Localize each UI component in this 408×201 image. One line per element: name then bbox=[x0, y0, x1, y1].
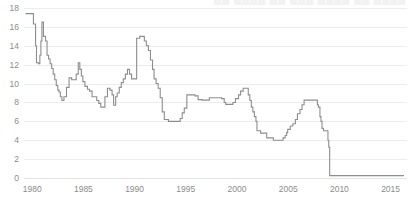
y-tick-label-12: 12 bbox=[10, 60, 20, 70]
y-axis-tick-labels: 024681012141618 bbox=[10, 3, 20, 183]
x-tick-label-2010: 2010 bbox=[330, 184, 349, 194]
y-tick-label-2: 2 bbox=[14, 154, 19, 164]
y-tick-label-0: 0 bbox=[14, 173, 19, 183]
x-tick-label-1980: 1980 bbox=[23, 184, 42, 194]
gridlines bbox=[24, 9, 407, 179]
y-tick-label-8: 8 bbox=[14, 97, 19, 107]
x-tick-label-2005: 2005 bbox=[279, 184, 298, 194]
x-tick-label-2015: 2015 bbox=[381, 184, 400, 194]
y-tick-label-4: 4 bbox=[14, 135, 19, 145]
x-tick-label-1990: 1990 bbox=[125, 184, 144, 194]
y-tick-label-10: 10 bbox=[10, 79, 20, 89]
series-lines bbox=[26, 14, 404, 176]
x-tick-label-1995: 1995 bbox=[176, 184, 195, 194]
y-tick-label-18: 18 bbox=[10, 3, 20, 13]
x-tick-label-2000: 2000 bbox=[228, 184, 247, 194]
line-chart: 024681012141618 198019851990199520002005… bbox=[0, 0, 408, 201]
series-line-0 bbox=[26, 14, 404, 176]
y-tick-label-6: 6 bbox=[14, 116, 19, 126]
y-tick-label-14: 14 bbox=[10, 41, 20, 51]
x-tick-label-1985: 1985 bbox=[74, 184, 93, 194]
y-tick-label-16: 16 bbox=[10, 22, 20, 32]
x-axis-tick-labels: 19801985199019952000200520102015 bbox=[23, 184, 401, 194]
chart-container: 024681012141618 198019851990199520002005… bbox=[0, 0, 408, 201]
